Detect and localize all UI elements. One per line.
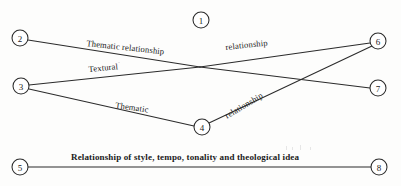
node-label-8: 8: [377, 163, 382, 173]
node-label-6: 6: [376, 37, 381, 47]
node-label-5: 5: [18, 163, 23, 173]
node-label-7: 7: [376, 84, 381, 94]
edge-line-center-to-7: [200, 67, 370, 88]
node-label-2: 2: [18, 34, 23, 44]
node-label-1: 1: [199, 16, 204, 26]
edge-label-bottom-relationship: Relationship of style, tempo, tonality a…: [71, 152, 299, 162]
node-label-4: 4: [200, 123, 205, 133]
relationship-diagram: 1 2 3 4 5 6 7 8 Thematic relationship re…: [0, 0, 401, 186]
node-label-3: 3: [19, 82, 24, 92]
edge-line-3-to-4: [29, 89, 194, 126]
